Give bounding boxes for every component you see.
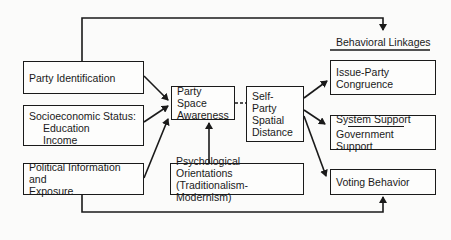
- node-political-information: Political Information and Exposure: [23, 163, 144, 195]
- edge-distance-to-voting: [304, 116, 326, 176]
- node-self-party-spatial-distance: Self-Party Spatial Distance: [246, 86, 304, 142]
- node-support: System Support Government Support: [330, 115, 436, 150]
- distance-line1: Self-Party: [252, 90, 298, 114]
- ses-item-education: Education: [29, 122, 138, 134]
- distance-line3: Distance: [252, 126, 298, 138]
- node-party-identification-text: Party Identification: [29, 72, 138, 84]
- edge-distance-to-support: [304, 110, 325, 124]
- support-line1: System Support: [336, 113, 430, 125]
- edge-polinfo-to-awareness: [144, 119, 168, 178]
- awareness-line2: Awareness: [177, 109, 229, 121]
- node-issue-party-congruence: Issue-Party Congruence: [330, 60, 436, 95]
- polinfo-line1: Political Information and: [29, 161, 138, 185]
- node-socioeconomic-status: Socioeconomic Status: Education Income: [23, 105, 144, 146]
- ses-title: Socioeconomic Status:: [29, 110, 138, 122]
- psych-line2: (Traditionalism-Modernism): [176, 179, 298, 203]
- support-divider: [348, 126, 404, 127]
- congruence-line2: Congruence: [336, 78, 430, 90]
- polinfo-line2: Exposure: [29, 185, 138, 197]
- node-party-identification: Party Identification: [23, 61, 144, 94]
- ses-item-income: Income: [29, 134, 138, 146]
- congruence-line1: Issue-Party: [336, 66, 430, 78]
- edge-partyid-to-awareness: [144, 76, 168, 100]
- voting-text: Voting Behavior: [336, 176, 430, 188]
- distance-line2: Spatial: [252, 114, 298, 126]
- node-voting-behavior: Voting Behavior: [330, 169, 436, 195]
- support-line2: Government Support: [336, 128, 430, 152]
- node-psychological-orientations: Psychological Orientations (Traditionali…: [170, 163, 304, 195]
- behavioral-linkages-label: Behavioral Linkages: [336, 36, 431, 48]
- node-party-space-awareness: Party Space Awareness: [171, 86, 235, 120]
- psych-line1: Psychological Orientations: [176, 155, 298, 179]
- edge-ses-to-awareness: [144, 106, 168, 122]
- edge-distance-to-congruence: [304, 81, 327, 98]
- awareness-line1: Party Space: [177, 85, 229, 109]
